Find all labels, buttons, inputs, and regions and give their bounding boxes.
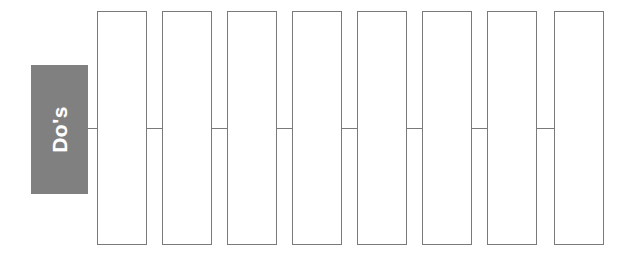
step-box-1[interactable]: [97, 11, 147, 245]
step-box-7-text: [488, 12, 536, 244]
connector-step-2-to-step-3: [211, 128, 227, 129]
step-box-3-text: [228, 12, 276, 244]
step-box-4-text: [293, 12, 341, 244]
step-box-8-text: [555, 12, 603, 244]
diagram-canvas: Do's: [0, 0, 626, 261]
step-box-7[interactable]: [487, 11, 537, 245]
step-box-4[interactable]: [292, 11, 342, 245]
step-box-6-text: [423, 12, 471, 244]
step-box-3[interactable]: [227, 11, 277, 245]
connector-step-1-to-step-2: [146, 128, 162, 129]
connector-step-4-to-step-5: [341, 128, 357, 129]
dos-label-text: Do's: [49, 106, 70, 153]
step-box-2-text: [163, 12, 211, 244]
connector-step-7-to-step-8: [536, 128, 554, 129]
connector-step-6-to-step-7: [471, 128, 487, 129]
dos-label-block[interactable]: Do's: [31, 65, 88, 194]
connector-step-3-to-step-4: [276, 128, 292, 129]
step-box-2[interactable]: [162, 11, 212, 245]
step-box-6[interactable]: [422, 11, 472, 245]
step-box-1-text: [98, 12, 146, 244]
step-box-5-text: [358, 12, 406, 244]
connector-step-5-to-step-6: [406, 128, 422, 129]
step-box-5[interactable]: [357, 11, 407, 245]
step-box-8[interactable]: [554, 11, 604, 245]
